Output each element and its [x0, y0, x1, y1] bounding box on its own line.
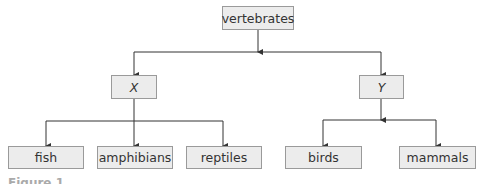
- node-mammals: mammals: [399, 146, 476, 169]
- node-birds: birds: [285, 146, 362, 169]
- node-fish: fish: [8, 146, 84, 169]
- node-label: birds: [308, 150, 339, 165]
- figure-caption: Figure 1: [8, 176, 64, 184]
- node-label: reptiles: [201, 150, 248, 165]
- node-label: X: [130, 80, 139, 95]
- node-amphibians: amphibians: [97, 146, 173, 169]
- node-label: vertebrates: [222, 11, 295, 26]
- node-label: amphibians: [99, 150, 172, 165]
- node-y: Y: [359, 75, 404, 99]
- node-label: fish: [35, 150, 57, 165]
- classification-tree-diagram: vertebrates X Y fish amphibians reptiles…: [0, 0, 482, 184]
- node-label: mammals: [407, 150, 469, 165]
- node-x: X: [111, 75, 157, 99]
- node-reptiles: reptiles: [186, 146, 262, 169]
- node-vertebrates: vertebrates: [222, 6, 294, 30]
- node-label: Y: [378, 80, 386, 95]
